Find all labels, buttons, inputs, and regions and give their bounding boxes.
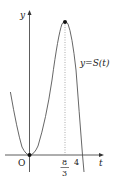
t-axis-label: t xyxy=(99,158,103,168)
y-axis-arrow-icon xyxy=(28,10,32,15)
curve-label: y=S(t) xyxy=(79,58,110,68)
graph-figure: y t O y=S(t) 8 3 4 xyxy=(0,0,119,178)
origin-label: O xyxy=(18,158,25,168)
t-axis-arrow-icon xyxy=(99,153,104,157)
tick-peak-denominator: 3 xyxy=(62,169,67,178)
y-axis-label: y xyxy=(19,10,26,20)
peak-point xyxy=(63,20,67,24)
tick-peak-numerator: 8 xyxy=(62,158,67,167)
origin-point xyxy=(28,153,32,157)
tick-root-label: 4 xyxy=(74,158,79,167)
curve-s-of-t xyxy=(10,22,84,173)
